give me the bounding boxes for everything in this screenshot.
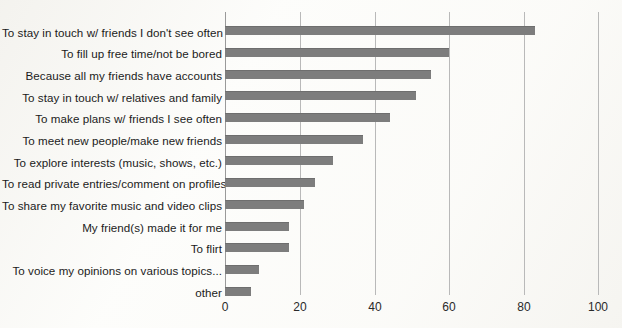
category-label: To fill up free time/not be bored [2,47,222,60]
category-label: To stay in touch w/ friends I don't see … [2,26,222,39]
x-tick-label: 80 [517,300,530,314]
bar-chart-figure: To stay in touch w/ friends I don't see … [0,0,622,328]
x-axis-tick-labels: 0 20 40 60 80 100 [225,0,599,328]
x-tick-label: 0 [222,300,229,314]
category-label: To flirt [2,242,222,255]
category-label: To read private entries/comment on profi… [2,177,222,190]
category-label: To meet new people/make new friends [2,134,222,147]
x-tick-label: 40 [368,300,381,314]
category-label: To explore interests (music, shows, etc.… [2,156,222,169]
category-label: To make plans w/ friends I see often [2,112,222,125]
category-label: To stay in touch w/ relatives and family [2,91,222,104]
category-label: other [2,286,222,299]
category-label: To voice my opinions on various topics..… [2,264,222,277]
category-label: To share my favorite music and video cli… [2,199,222,212]
category-label: My friend(s) made it for me [2,221,222,234]
x-tick-label: 20 [293,300,306,314]
x-tick-label: 100 [588,300,608,314]
category-label: Because all my friends have accounts [2,69,222,82]
category-axis-labels: To stay in touch w/ friends I don't see … [0,12,222,295]
x-tick-label: 60 [442,300,455,314]
